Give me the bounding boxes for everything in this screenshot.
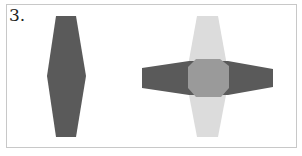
shapes-canvas	[0, 0, 302, 156]
left-vertical-hexagon	[47, 16, 86, 137]
overlap-region	[188, 59, 229, 97]
